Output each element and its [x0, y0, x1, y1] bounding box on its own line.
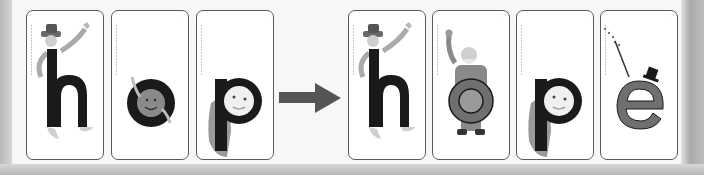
peter-puppy-p-illustration [517, 11, 594, 160]
frame-bottom-edge [0, 164, 704, 175]
letter-card-p[interactable]: · [196, 10, 274, 160]
letter-card-h[interactable]: · [348, 10, 426, 160]
letter-card-h[interactable]: · [26, 10, 104, 160]
orange-ball-o-illustration [112, 11, 189, 160]
hairy-hat-man-h-illustration [349, 11, 426, 160]
peter-puppy-p-illustration [197, 11, 274, 160]
letter-card-o[interactable]: · [432, 10, 510, 160]
letter-card-e[interactable]: · [600, 10, 678, 160]
letter-card-o[interactable]: · [111, 10, 189, 160]
right-arrow-icon [279, 83, 341, 113]
hairy-hat-man-h-illustration [27, 11, 104, 160]
letter-card-p[interactable]: · [516, 10, 594, 160]
old-man-o-illustration [433, 11, 510, 160]
frame-left-edge [0, 0, 12, 175]
magic-e-illustration [601, 11, 678, 160]
frame-right-edge [681, 0, 704, 175]
